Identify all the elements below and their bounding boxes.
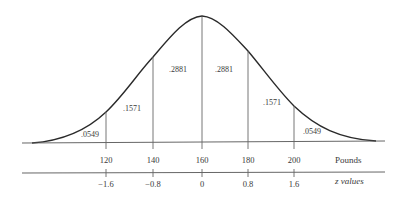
region-label-140-160: .2881 xyxy=(169,65,187,74)
pounds-tick-140: 140 xyxy=(147,155,160,165)
region-label-160-180: .2881 xyxy=(215,65,233,74)
pounds-axis-name: Pounds xyxy=(335,155,362,165)
region-label-left-tail: .0549 xyxy=(81,130,99,139)
pounds-tick-160: 160 xyxy=(196,155,209,165)
pounds-tick-120: 120 xyxy=(100,155,113,165)
region-label-right-tail: .0549 xyxy=(303,127,321,136)
pounds-tick-200: 200 xyxy=(288,155,301,165)
z-tick-neg0-8: −0.8 xyxy=(145,179,160,189)
z-tick-1-6: 1.6 xyxy=(289,179,300,189)
normal-distribution-diagram: .0549 .1571 .2881 .2881 .1571 .0549 120 … xyxy=(0,0,400,198)
z-axis-name: z values xyxy=(334,176,364,186)
region-label-120-140: .1571 xyxy=(123,104,141,113)
region-label-180-200: .1571 xyxy=(263,98,281,107)
bell-curve xyxy=(32,16,376,143)
z-tick-neg1-6: −1.6 xyxy=(98,179,113,189)
z-tick-0-8: 0.8 xyxy=(243,179,254,189)
z-tick-0: 0 xyxy=(200,179,204,189)
pounds-axis-line xyxy=(22,141,385,143)
z-axis-line xyxy=(22,172,385,173)
pounds-tick-180: 180 xyxy=(242,155,255,165)
